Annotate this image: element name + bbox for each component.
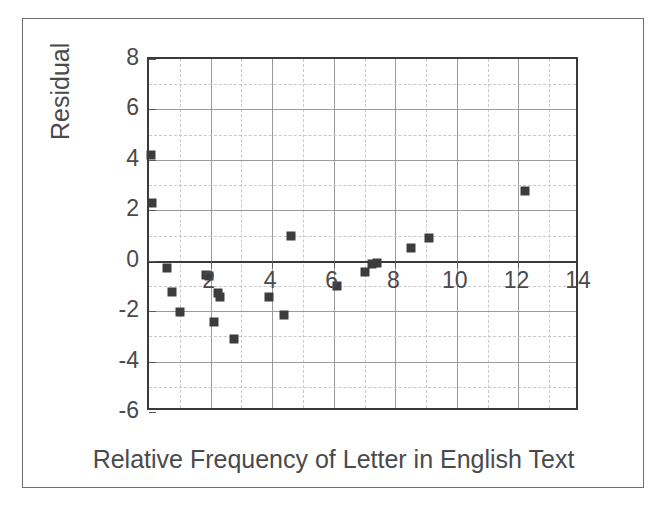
gridline-minor-horizontal: [149, 135, 576, 136]
x-axis-tick-label: 8: [387, 267, 400, 294]
gridline-major-vertical: [211, 59, 212, 408]
y-axis-title: Residual: [46, 43, 75, 140]
x-axis-tick-label: 10: [442, 267, 468, 294]
x-axis-tick-label: 6: [325, 267, 338, 294]
residual-scatter-figure: 2468101214-6-4-202468 Residual Relative …: [0, 0, 667, 512]
gridline-major-horizontal: [149, 160, 576, 161]
data-point-marker: [425, 234, 434, 243]
gridline-minor-vertical: [180, 59, 181, 408]
y-axis-tick-label: -2: [95, 296, 139, 323]
x-axis-title: Relative Frequency of Letter in English …: [0, 445, 667, 474]
y-axis-tick: [149, 210, 156, 211]
gridline-major-vertical: [457, 59, 458, 408]
gridline-major-horizontal: [149, 109, 576, 110]
data-point-marker: [406, 244, 415, 253]
y-axis-tick: [149, 412, 156, 413]
data-point-marker: [168, 288, 177, 297]
y-axis-tick-label: 6: [95, 94, 139, 121]
gridline-minor-horizontal: [149, 387, 576, 388]
y-axis-tick-label: 0: [95, 245, 139, 272]
data-point-marker: [215, 293, 224, 302]
y-axis-tick: [149, 59, 156, 60]
data-point-marker: [147, 150, 156, 159]
x-axis-tick-label: 12: [504, 267, 530, 294]
y-axis-tick: [149, 261, 156, 262]
gridline-minor-horizontal: [149, 236, 576, 237]
y-axis-tick: [149, 160, 156, 161]
gridline-minor-vertical: [549, 59, 550, 408]
gridline-minor-horizontal: [149, 84, 576, 85]
data-point-marker: [229, 334, 238, 343]
plot-area: [147, 57, 578, 410]
gridline-major-vertical: [518, 59, 519, 408]
gridline-minor-horizontal: [149, 336, 576, 337]
gridline-minor-vertical: [365, 59, 366, 408]
data-point-marker: [286, 231, 295, 240]
gridline-major-horizontal: [149, 362, 576, 363]
gridline-minor-vertical: [488, 59, 489, 408]
data-point-marker: [148, 198, 157, 207]
gridline-major-horizontal: [149, 311, 576, 312]
y-axis-tick-label: -6: [95, 397, 139, 424]
gridline-major-vertical: [272, 59, 273, 408]
gridline-major-vertical: [334, 59, 335, 408]
data-point-marker: [265, 293, 274, 302]
gridline-minor-vertical: [303, 59, 304, 408]
y-axis-tick-label: 4: [95, 144, 139, 171]
y-axis-tick-label: 2: [95, 195, 139, 222]
x-axis-tick-label: 14: [565, 267, 591, 294]
data-point-marker: [372, 259, 381, 268]
x-axis-tick-label: 4: [264, 267, 277, 294]
y-axis-tick: [149, 311, 156, 312]
data-point-marker: [175, 308, 184, 317]
gridline-minor-vertical: [241, 59, 242, 408]
data-point-marker: [209, 318, 218, 327]
y-axis-tick-label: 8: [95, 44, 139, 71]
data-point-marker: [280, 310, 289, 319]
data-point-marker: [163, 264, 172, 273]
x-axis-tick-label: 2: [202, 267, 215, 294]
zero-reference-line: [149, 261, 576, 263]
y-axis-tick: [149, 109, 156, 110]
gridline-minor-horizontal: [149, 185, 576, 186]
gridline-major-vertical: [395, 59, 396, 408]
y-axis-tick: [149, 362, 156, 363]
y-axis-tick-label: -4: [95, 346, 139, 373]
gridline-major-horizontal: [149, 210, 576, 211]
data-point-marker: [520, 187, 529, 196]
